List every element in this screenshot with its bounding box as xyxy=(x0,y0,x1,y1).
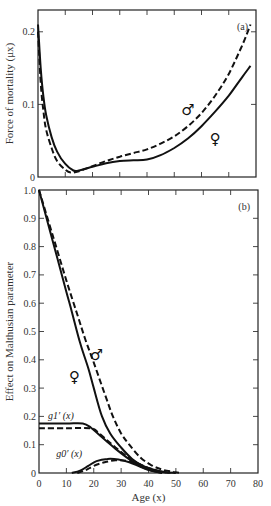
panel-label: (b) xyxy=(238,201,250,213)
y-tick-label: 0.9 xyxy=(24,213,37,224)
x-tick-label: 80 xyxy=(253,478,263,489)
x-tick-label: 20 xyxy=(89,478,99,489)
male-symbol-annotation: ♂ xyxy=(90,346,103,364)
y-tick-label: 0.1 xyxy=(24,439,37,450)
y-axis-title: Effect on Malthusian parameter xyxy=(3,261,15,401)
plot-frame xyxy=(39,190,258,473)
female-symbol-annotation: ♀ xyxy=(69,368,80,386)
x-axis-title: Age (x) xyxy=(132,491,166,504)
x-tick-label: 60 xyxy=(198,478,208,489)
series-line-male-total xyxy=(39,190,181,473)
chart: 00.10.2(a)Force of mortality (μx)♂♀ 0102… xyxy=(0,0,271,506)
x-tick-label: 30 xyxy=(116,478,126,489)
curve-label-annotation: g1′ (x) xyxy=(48,410,74,422)
y-tick-label: 0 xyxy=(30,172,35,183)
y-tick-label: 0.6 xyxy=(24,298,37,309)
female-symbol-annotation: ♀ xyxy=(210,130,221,148)
y-tick-label: 1.0 xyxy=(24,185,37,196)
curve-label-annotation: g0′ (x) xyxy=(56,448,82,460)
y-tick-label: 0.7 xyxy=(24,269,37,280)
panel-a: 00.10.2(a)Force of mortality (μx)♂♀ xyxy=(3,10,256,183)
x-tick-label: 70 xyxy=(226,478,236,489)
y-tick-label: 0.2 xyxy=(23,26,36,37)
series-line-female-total xyxy=(39,190,176,473)
y-tick-label: 0 xyxy=(31,468,36,479)
series-line-male xyxy=(38,25,251,173)
y-tick-label: 0.3 xyxy=(24,383,37,394)
x-tick-label: 40 xyxy=(144,478,154,489)
x-tick-label: 50 xyxy=(171,478,181,489)
panel-label: (a) xyxy=(237,21,248,33)
panel-b: 0102030405060708000.10.20.30.40.50.60.70… xyxy=(3,185,263,505)
y-tick-label: 0.4 xyxy=(24,354,37,365)
series-line-female xyxy=(38,25,251,172)
y-tick-label: 0.5 xyxy=(24,326,37,337)
male-symbol-annotation: ♂ xyxy=(181,101,194,119)
y-tick-label: 0.1 xyxy=(23,99,36,110)
x-tick-label: 10 xyxy=(61,478,71,489)
y-tick-label: 0.8 xyxy=(24,241,37,252)
y-axis-title: Force of mortality (μx) xyxy=(3,42,16,144)
x-tick-label: 0 xyxy=(37,478,42,489)
y-tick-label: 0.2 xyxy=(24,411,37,422)
plot-frame xyxy=(38,10,256,177)
